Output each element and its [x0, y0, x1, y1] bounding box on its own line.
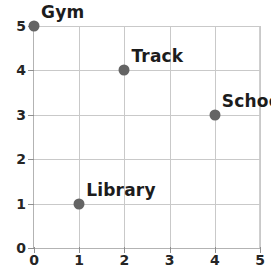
data-point-label: Gym [41, 2, 84, 22]
y-axis-tick-label: 1 [6, 196, 26, 212]
x-axis-line [33, 248, 260, 249]
gridline-vertical [215, 26, 216, 248]
x-axis-tick-label: 4 [210, 252, 220, 267]
gridline-horizontal [34, 204, 260, 205]
data-point-label: School [222, 91, 271, 111]
gridline-horizontal [34, 26, 260, 27]
x-axis-tick-label: 0 [29, 252, 39, 267]
scatter-plot-figure: 012345012345GymTrackSchoolLibrary [0, 0, 271, 267]
data-point[interactable] [29, 21, 40, 32]
x-axis-tick-label: 1 [74, 252, 84, 267]
y-axis-tick-label: 3 [6, 107, 26, 123]
x-axis-tick-label: 3 [165, 252, 175, 267]
gridline-vertical [79, 26, 80, 248]
gridline-vertical [124, 26, 125, 248]
gridline-horizontal [34, 159, 260, 160]
y-axis-tick [28, 248, 34, 249]
x-axis-tick-label: 5 [255, 252, 265, 267]
gridline-horizontal [34, 115, 260, 116]
y-axis-line [33, 26, 34, 248]
y-axis-tick-label: 5 [6, 18, 26, 34]
y-axis-tick-label: 2 [6, 151, 26, 167]
data-point-label: Track [131, 46, 183, 66]
x-axis-tick-label: 2 [120, 252, 130, 267]
data-point-label: Library [86, 180, 156, 200]
gridline-vertical [260, 26, 261, 248]
y-axis-tick [28, 159, 34, 160]
y-axis-tick [28, 204, 34, 205]
gridline-horizontal [34, 70, 260, 71]
y-axis-tick [28, 70, 34, 71]
y-axis-tick-label: 4 [6, 62, 26, 78]
y-axis-tick [28, 115, 34, 116]
data-point[interactable] [119, 65, 130, 76]
y-axis-tick-label: 0 [6, 240, 26, 256]
data-point[interactable] [74, 198, 85, 209]
data-point[interactable] [209, 109, 220, 120]
